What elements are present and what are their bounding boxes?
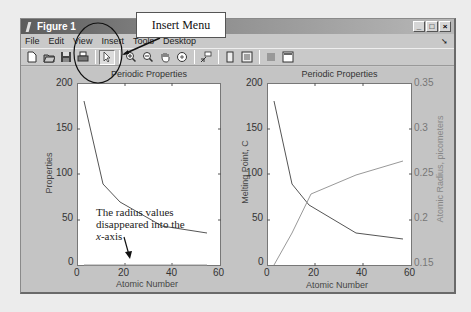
left-ytick: 100 xyxy=(56,167,73,178)
right-xtick: 60 xyxy=(404,267,415,278)
save-icon xyxy=(60,51,72,63)
right-ylabel-right: Atomic Radius, picometers xyxy=(435,104,445,234)
right-xtick: 40 xyxy=(356,267,367,278)
left-ylabel: Properties xyxy=(44,148,54,198)
zoom-out-icon xyxy=(142,51,154,63)
right-ytick-right: 0.2 xyxy=(414,212,428,223)
right-ytick-right: 0.3 xyxy=(414,122,428,133)
left-ytick: 150 xyxy=(56,122,73,133)
show-plot-tools-icon xyxy=(282,51,294,63)
legend-icon xyxy=(241,51,253,63)
right-ytick-left: 200 xyxy=(246,77,263,88)
right-ylabel-left: Melting Point, C xyxy=(240,127,250,217)
right-xtick: 20 xyxy=(308,267,319,278)
data-cursor-button[interactable] xyxy=(198,50,214,65)
menu-view[interactable]: View xyxy=(73,36,92,46)
left-xtick: 40 xyxy=(166,267,177,278)
colorbar-icon xyxy=(224,51,236,63)
menu-edit[interactable]: Edit xyxy=(49,36,65,46)
right-ytick-left: 50 xyxy=(252,212,263,223)
right-ytick-right: 0.15 xyxy=(414,257,433,268)
left-ytick: 50 xyxy=(62,212,73,223)
insert-colorbar-button[interactable] xyxy=(222,50,238,65)
hide-plot-tools-icon xyxy=(265,51,277,63)
right-ytick-left: 0 xyxy=(258,256,264,267)
right-ytick-right: 0.25 xyxy=(414,167,433,178)
left-ytick: 0 xyxy=(68,256,74,267)
right-xtick: 0 xyxy=(264,267,270,278)
left-axes-title: Periodic Properties xyxy=(77,69,221,79)
right-plot-area[interactable] xyxy=(267,83,412,266)
window-title: Figure 1 xyxy=(37,21,76,32)
menu-bar: File Edit View Insert Tools Desktop ➘ xyxy=(21,34,454,48)
dock-arrow-icon[interactable]: ➘ xyxy=(441,37,448,46)
print-icon xyxy=(77,51,89,63)
zoom-in-icon xyxy=(125,51,137,63)
menu-file[interactable]: File xyxy=(25,36,40,46)
right-axes-title: Periodic Properties xyxy=(267,69,412,79)
new-figure-button[interactable] xyxy=(24,50,40,65)
matlab-logo-icon xyxy=(24,22,34,32)
data-cursor-icon xyxy=(200,51,212,63)
zoom-in-button[interactable] xyxy=(123,50,139,65)
radius-annotation: The radius values disappeared into the x… xyxy=(96,206,185,242)
show-plot-tools-button[interactable] xyxy=(280,50,296,65)
right-ytick-right: 0.35 xyxy=(414,77,433,88)
left-xtick: 0 xyxy=(74,267,80,278)
toolbar-separator xyxy=(218,50,219,64)
left-xtick: 60 xyxy=(213,267,224,278)
zoom-out-button[interactable] xyxy=(140,50,156,65)
title-bar[interactable]: Figure 1 _ □ × xyxy=(21,19,454,34)
toolbar-separator xyxy=(119,50,120,64)
print-button[interactable] xyxy=(75,50,91,65)
new-file-icon xyxy=(26,51,38,63)
minimize-button[interactable]: _ xyxy=(413,21,425,32)
insert-legend-button[interactable] xyxy=(239,50,255,65)
open-folder-icon xyxy=(43,51,55,63)
toolbar-separator xyxy=(194,50,195,64)
toolbar-separator xyxy=(95,50,96,64)
rotate-3d-icon xyxy=(176,51,188,63)
rotate-3d-button[interactable] xyxy=(174,50,190,65)
pointer-arrow-icon xyxy=(101,51,113,63)
right-xlabel: Atomic Number xyxy=(306,280,368,290)
edit-plot-button[interactable] xyxy=(99,50,115,65)
close-button[interactable]: × xyxy=(439,21,451,32)
menu-insert[interactable]: Insert xyxy=(101,36,124,46)
figure-toolbar xyxy=(21,48,454,66)
left-xtick: 20 xyxy=(118,267,129,278)
open-file-button[interactable] xyxy=(41,50,57,65)
insert-menu-callout: Insert Menu xyxy=(136,12,226,38)
left-ytick: 200 xyxy=(56,77,73,88)
hide-plot-tools-button[interactable] xyxy=(263,50,279,65)
maximize-button[interactable]: □ xyxy=(426,21,438,32)
pan-button[interactable] xyxy=(157,50,173,65)
toolbar-separator xyxy=(259,50,260,64)
left-xlabel: Atomic Number xyxy=(116,279,178,289)
save-button[interactable] xyxy=(58,50,74,65)
pan-hand-icon xyxy=(159,51,171,63)
